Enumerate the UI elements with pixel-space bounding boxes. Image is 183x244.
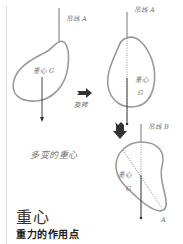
right-arrow-icon [77,88,92,98]
down-arrow-icon [113,122,127,139]
string-a-label: 吊线 A [134,6,155,14]
gravity-arrow-icon [40,117,44,122]
rotate-arrow: 旋转 [74,88,92,109]
cog-label: 重心 G [33,67,54,75]
string-b-label: 吊线 B [148,123,169,131]
rotated-shape-outline [108,37,155,107]
dotted-line-a [123,150,162,208]
point-a-label: A [160,216,166,224]
figure-2: 吊线 A 重心 G [108,6,155,125]
rotate-label: 旋转 [74,101,89,109]
diagram-caption: 多变的重心 [30,148,78,161]
page-subtitle: 重力的作用点 [16,226,79,241]
gravity-point-icon [140,217,143,220]
cog-label: 重心 [118,171,132,179]
page-title: 重心 [16,204,50,228]
figure-3: 吊线 B 重心 G A [116,123,169,224]
string-a-label: 吊线 A [66,15,87,23]
cog-letter: G [138,89,143,97]
cog-letter: G [126,185,131,193]
cog-label: 重心 [135,76,149,84]
gravity-point-icon [126,123,129,126]
